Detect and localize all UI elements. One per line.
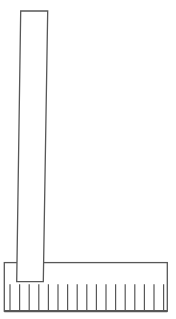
vertical-bar-shape <box>17 11 48 282</box>
figure-canvas <box>0 0 176 319</box>
figure-svg <box>0 0 176 319</box>
